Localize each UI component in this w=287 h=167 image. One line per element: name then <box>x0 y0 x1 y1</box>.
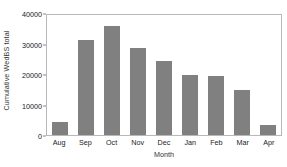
bars-layer <box>47 15 281 135</box>
bar-slot <box>99 15 125 135</box>
y-tick-label: 30000 <box>22 40 42 49</box>
x-tick-label: Mar <box>230 137 256 149</box>
bar-slot <box>47 15 73 135</box>
x-tick-label: Sep <box>72 137 98 149</box>
y-tick-mark <box>43 75 46 76</box>
y-tick-label: 0 <box>38 132 42 141</box>
bar-slot <box>229 15 255 135</box>
x-tick-label: Feb <box>203 137 229 149</box>
bar <box>130 48 146 135</box>
y-tick-mark <box>43 136 46 137</box>
y-tick-mark <box>43 14 46 15</box>
y-axis-title: Cumulative WedBS total <box>0 0 14 140</box>
y-tick-mark <box>43 44 46 45</box>
x-tick-label: Apr <box>256 137 282 149</box>
bar-chart: Cumulative WedBS total 01000020000300004… <box>0 0 287 167</box>
bar <box>208 76 224 135</box>
y-tick-label: 10000 <box>22 101 42 110</box>
x-tick-label: Aug <box>46 137 72 149</box>
x-tick-label: Dec <box>151 137 177 149</box>
x-tick-label: Jan <box>177 137 203 149</box>
x-axis-tick-labels: AugSepOctNovDecJanFebMarApr <box>46 137 282 149</box>
y-axis-tick-labels: 010000200003000040000 <box>14 0 46 145</box>
x-tick-label: Nov <box>125 137 151 149</box>
bar-slot <box>73 15 99 135</box>
bar-slot <box>125 15 151 135</box>
bar <box>234 90 250 135</box>
y-axis-title-label: Cumulative WedBS total <box>3 30 12 110</box>
bar <box>78 40 94 135</box>
bar-slot <box>177 15 203 135</box>
plot-area <box>46 14 282 136</box>
bar <box>104 26 120 135</box>
bar <box>52 122 68 135</box>
bar-slot <box>203 15 229 135</box>
bar <box>260 125 276 135</box>
bar-slot <box>151 15 177 135</box>
bar <box>182 75 198 135</box>
bar <box>156 61 172 135</box>
bar-slot <box>255 15 281 135</box>
x-tick-label: Oct <box>98 137 124 149</box>
y-tick-mark <box>43 105 46 106</box>
y-tick-label: 40000 <box>22 10 42 19</box>
y-tick-label: 20000 <box>22 71 42 80</box>
x-axis-title: Month <box>46 150 282 159</box>
